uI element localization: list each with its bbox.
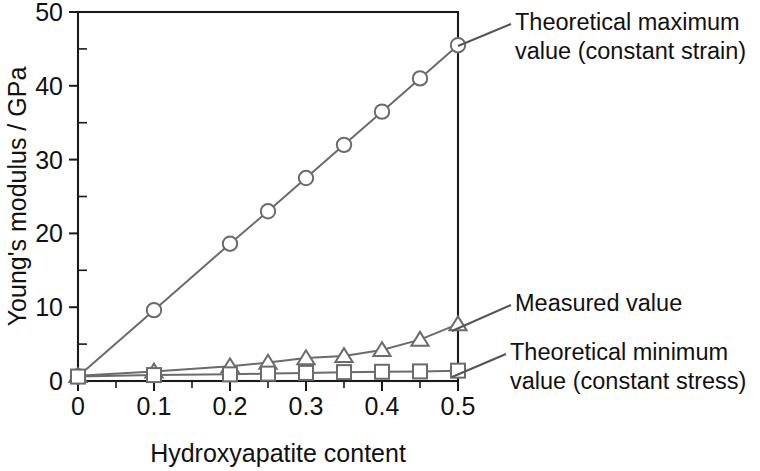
x-tick-label: 0.3: [289, 392, 324, 420]
x-tick-label: 0.2: [213, 392, 248, 420]
chart-canvas: 0102030405000.10.20.30.40.5Hydroxyapatit…: [0, 0, 760, 471]
data-point-circle: [261, 204, 275, 218]
data-point-square: [413, 364, 427, 378]
data-point-circle: [299, 171, 313, 185]
data-point-square: [299, 366, 313, 380]
annotation-measured-value: Measured value: [515, 290, 682, 316]
data-point-square: [147, 368, 161, 382]
data-point-square: [71, 370, 85, 384]
y-tick-label: 0: [49, 367, 63, 395]
data-point-circle: [223, 237, 237, 251]
data-point-square: [261, 367, 275, 381]
data-point-square: [337, 365, 351, 379]
data-point-circle: [375, 104, 389, 118]
x-tick-label: 0: [71, 392, 85, 420]
annotation-line: Theoretical minimum: [510, 339, 728, 365]
x-tick-label: 0.1: [137, 392, 172, 420]
data-point-square: [375, 365, 389, 379]
y-tick-label: 10: [35, 293, 63, 321]
data-point-circle: [413, 71, 427, 85]
data-point-circle: [147, 303, 161, 317]
x-tick-label: 0.4: [365, 392, 400, 420]
annotation-line: value (constant strain): [515, 38, 746, 64]
data-point-square: [223, 367, 237, 381]
y-tick-label: 50: [35, 0, 63, 26]
y-tick-label: 40: [35, 72, 63, 100]
y-axis-title: Young's modulus / GPa: [3, 67, 31, 327]
chart-figure: 0102030405000.10.20.30.40.5Hydroxyapatit…: [0, 0, 760, 471]
annotation-line: Measured value: [515, 290, 682, 316]
annotation-line: Theoretical maximum: [515, 9, 740, 35]
annotation-line: value (constant stress): [510, 368, 746, 394]
y-tick-label: 20: [35, 219, 63, 247]
data-point-circle: [337, 138, 351, 152]
y-tick-label: 30: [35, 146, 63, 174]
x-tick-label: 0.5: [441, 392, 476, 420]
x-axis-title: Hydroxyapatite content: [150, 439, 406, 467]
